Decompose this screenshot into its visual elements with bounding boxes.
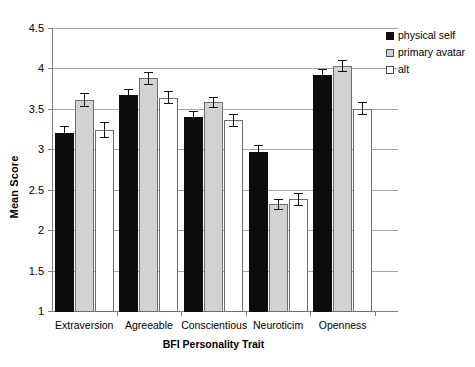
legend-item: primary avatar bbox=[386, 44, 474, 61]
y-tick-label: 2.5 bbox=[14, 185, 44, 196]
error-bar bbox=[164, 91, 173, 104]
error-bar-cap-top bbox=[254, 145, 263, 146]
error-bar bbox=[358, 102, 367, 115]
error-bar-stem bbox=[84, 93, 85, 108]
y-tick-label: 4.5 bbox=[14, 23, 44, 34]
error-bar-cap-top bbox=[318, 69, 327, 70]
error-bar-cap-top bbox=[124, 89, 133, 90]
error-bar bbox=[274, 199, 283, 210]
error-bar bbox=[209, 97, 218, 108]
y-tick-label: 4 bbox=[14, 63, 44, 74]
error-bar-stem bbox=[64, 126, 65, 141]
y-tick-mark bbox=[48, 311, 53, 312]
error-bar bbox=[189, 111, 198, 122]
legend-item: physical self bbox=[386, 27, 474, 44]
legend-swatch-icon bbox=[386, 32, 394, 40]
error-bar bbox=[124, 89, 133, 102]
bar bbox=[75, 100, 94, 312]
error-bar-cap-bottom bbox=[318, 80, 327, 81]
bar bbox=[55, 133, 74, 312]
error-bar-cap-top bbox=[274, 199, 283, 200]
y-tick-mark bbox=[48, 271, 53, 272]
bar bbox=[224, 120, 243, 312]
y-tick-mark bbox=[48, 28, 53, 29]
error-bar-cap-bottom bbox=[254, 157, 263, 158]
x-tick-mark bbox=[181, 311, 182, 316]
error-bar-cap-bottom bbox=[144, 84, 153, 85]
error-bar-cap-bottom bbox=[229, 126, 238, 127]
x-category-label: Conscientious bbox=[181, 319, 246, 331]
y-tick-label: 3 bbox=[14, 144, 44, 155]
error-bar-cap-bottom bbox=[209, 107, 218, 108]
bar bbox=[289, 199, 308, 312]
bar bbox=[249, 152, 268, 312]
error-bar-cap-top bbox=[189, 111, 198, 112]
error-bar bbox=[80, 93, 89, 108]
error-bar-cap-bottom bbox=[358, 114, 367, 115]
legend-label: primary avatar bbox=[398, 47, 465, 58]
error-bar-stem bbox=[104, 122, 105, 138]
error-bar-cap-top bbox=[229, 114, 238, 115]
error-bar bbox=[294, 193, 303, 206]
x-tick-mark bbox=[310, 311, 311, 316]
error-bar-cap-bottom bbox=[294, 205, 303, 206]
bar bbox=[159, 98, 178, 312]
x-tick-mark bbox=[246, 311, 247, 316]
bar bbox=[269, 204, 288, 312]
error-bar bbox=[338, 60, 347, 71]
y-tick-mark bbox=[48, 230, 53, 231]
error-bar-cap-bottom bbox=[124, 101, 133, 102]
error-bar bbox=[318, 69, 327, 80]
y-tick-label: 2 bbox=[14, 225, 44, 236]
error-bar-cap-top bbox=[338, 60, 347, 61]
y-axis-line bbox=[52, 28, 53, 312]
bar bbox=[353, 109, 372, 312]
error-bar-cap-top bbox=[358, 102, 367, 103]
legend-label: physical self bbox=[398, 30, 455, 41]
error-bar-cap-bottom bbox=[338, 71, 347, 72]
error-bar bbox=[144, 72, 153, 85]
error-bar bbox=[100, 122, 109, 138]
y-tick-mark bbox=[48, 109, 53, 110]
chart-legend: physical selfprimary avataralt bbox=[386, 27, 474, 78]
y-tick-mark bbox=[48, 68, 53, 69]
error-bar-cap-top bbox=[164, 91, 173, 92]
error-bar-cap-bottom bbox=[100, 137, 109, 138]
error-bar-cap-bottom bbox=[189, 122, 198, 123]
error-bar-cap-bottom bbox=[164, 103, 173, 104]
error-bar bbox=[229, 114, 238, 127]
y-tick-label: 1.5 bbox=[14, 266, 44, 277]
x-tick-mark bbox=[375, 311, 376, 316]
error-bar-cap-top bbox=[209, 97, 218, 98]
bar bbox=[184, 117, 203, 312]
error-bar bbox=[60, 126, 69, 141]
x-category-label: Openness bbox=[310, 319, 375, 331]
error-bar-cap-top bbox=[144, 72, 153, 73]
gridline bbox=[52, 28, 398, 29]
y-tick-label: 3.5 bbox=[14, 104, 44, 115]
bar bbox=[139, 78, 158, 312]
bar bbox=[95, 130, 114, 312]
bar-chart: Mean Score 11.522.533.544.5 Extraversion… bbox=[0, 0, 475, 367]
legend-swatch-icon bbox=[386, 66, 394, 74]
x-category-label: Neuroticim bbox=[246, 319, 311, 331]
error-bar bbox=[254, 145, 263, 158]
x-axis-title: BFI Personality Trait bbox=[52, 338, 375, 350]
bar bbox=[119, 95, 138, 312]
legend-label: alt bbox=[398, 64, 409, 75]
error-bar-cap-bottom bbox=[60, 139, 69, 140]
error-bar-cap-bottom bbox=[274, 209, 283, 210]
y-tick-mark bbox=[48, 190, 53, 191]
error-bar-cap-top bbox=[60, 126, 69, 127]
error-bar-cap-bottom bbox=[80, 106, 89, 107]
x-category-label: Extraversion bbox=[52, 319, 117, 331]
x-tick-mark bbox=[117, 311, 118, 316]
error-bar-cap-top bbox=[100, 122, 109, 123]
x-category-label: Agreeable bbox=[117, 319, 182, 331]
error-bar-cap-top bbox=[294, 193, 303, 194]
legend-item: alt bbox=[386, 61, 474, 78]
y-tick-label: 1 bbox=[14, 306, 44, 317]
bar bbox=[333, 66, 352, 312]
bar bbox=[313, 75, 332, 312]
bar bbox=[204, 102, 223, 312]
